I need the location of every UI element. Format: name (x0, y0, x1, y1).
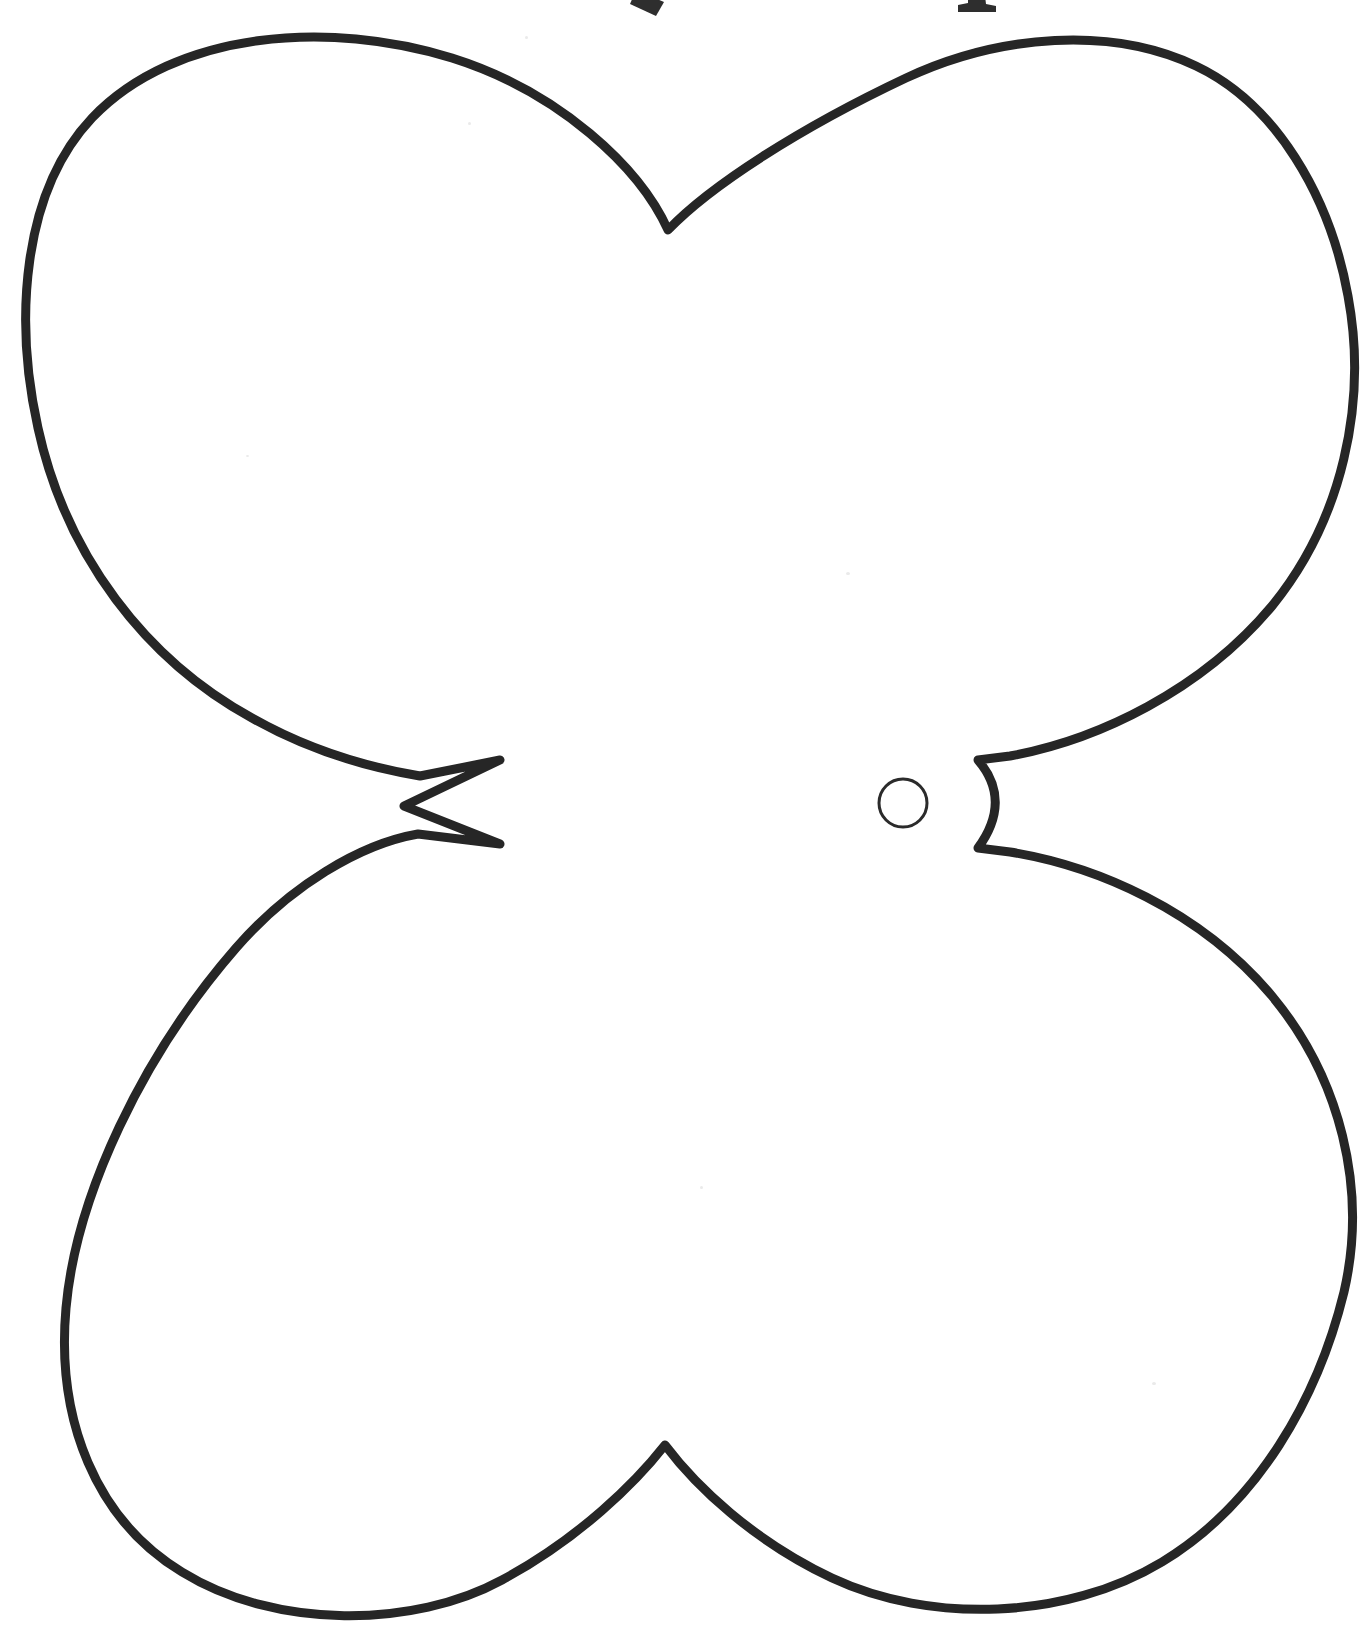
cropped-ink-marks-group (630, 0, 996, 16)
ink-mark-left (630, 0, 664, 16)
ink-mark-right (958, 0, 996, 12)
scanned-page: Four-Lobe Butterfly Craft Template Butte… (0, 0, 1366, 1635)
template-drawing-canvas (0, 0, 1366, 1635)
butterfly-template-outline (26, 37, 1355, 1616)
punch-hole-circle (879, 779, 927, 827)
